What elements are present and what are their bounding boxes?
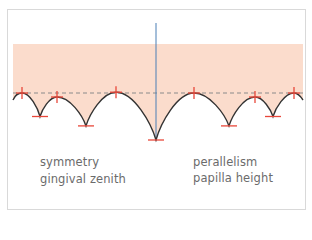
- pink-band: [13, 44, 303, 93]
- label-symmetry: symmetry: [40, 154, 99, 171]
- label-perallelism: perallelism: [193, 154, 257, 171]
- label-papilla-height: papilla height: [193, 170, 273, 187]
- label-gingival-zenith: gingival zenith: [40, 171, 126, 188]
